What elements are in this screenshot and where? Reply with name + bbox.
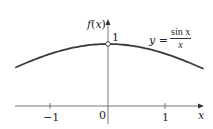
x-axis-label: x <box>198 110 204 121</box>
x-tick-label-neg1: −1 <box>43 112 59 123</box>
equation-numerator: sin x <box>170 27 191 39</box>
origin-label: 0 <box>99 110 106 121</box>
y-axis-label: f(x) <box>87 19 106 30</box>
x-tick-label-pos1: 1 <box>162 112 169 123</box>
equation-lhs: y = <box>149 35 168 46</box>
x-axis-arrow-icon <box>198 104 204 109</box>
equation-fraction: sin x x <box>170 27 191 50</box>
y-tick-label-one: 1 <box>112 32 119 43</box>
y-axis-arrow-icon <box>106 19 111 25</box>
equation-denominator: x <box>178 39 182 50</box>
sinc-plot <box>0 0 213 129</box>
hole-marker <box>106 42 111 47</box>
